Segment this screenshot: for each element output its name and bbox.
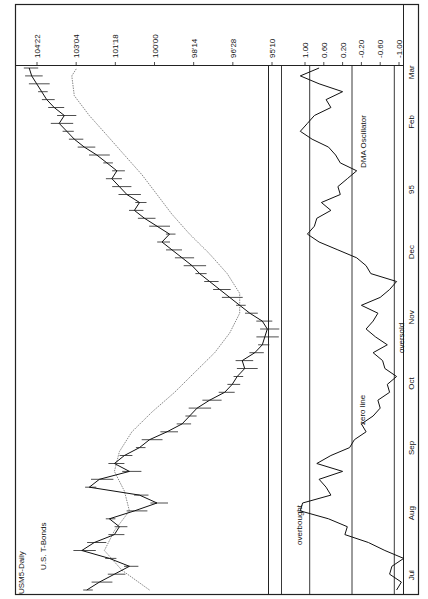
chart-title: USM5-Daily xyxy=(17,551,26,594)
osc-tick-label: 0.60 xyxy=(320,42,329,58)
zero-line-label: zero line xyxy=(358,394,367,425)
overbought-label: overbought xyxy=(295,504,304,545)
month-label: Dec xyxy=(407,245,416,259)
oversold-label: oversold xyxy=(397,323,406,353)
month-label: Feb xyxy=(407,114,416,128)
price-tick-label: 100'00 xyxy=(151,34,160,58)
month-label: Sep xyxy=(407,440,416,455)
price-tick-label: 98'14 xyxy=(190,38,199,58)
price-tick-label: 95'10 xyxy=(268,38,277,58)
osc-tick-label: -0.20 xyxy=(357,39,366,58)
price-tick-label: 101'18 xyxy=(111,34,120,58)
osc-tick-label: -1.00 xyxy=(395,39,404,58)
chart-subtitle: U.S. T-Bonds xyxy=(39,523,48,570)
chart-figure: 95'1096'2898'14100'00101'18103'04104'22 … xyxy=(0,0,428,599)
month-label: Aug xyxy=(407,506,416,520)
month-label: Mar xyxy=(407,65,416,79)
background xyxy=(0,0,428,599)
month-label: Jul xyxy=(407,570,416,580)
price-tick-label: 96'28 xyxy=(229,38,238,58)
month-label: Oct xyxy=(407,377,416,390)
month-label: Nov xyxy=(407,310,416,324)
osc-tick-label: -0.60 xyxy=(376,39,385,58)
price-tick-label: 104'22 xyxy=(33,34,42,58)
osc-tick-label: 1.00 xyxy=(301,42,310,58)
oscillator-title: DMA Oscillator xyxy=(359,115,368,168)
price-tick-label: 103'04 xyxy=(72,34,81,58)
month-label: 95 xyxy=(407,185,416,194)
osc-tick-label: 0.20 xyxy=(339,42,348,58)
